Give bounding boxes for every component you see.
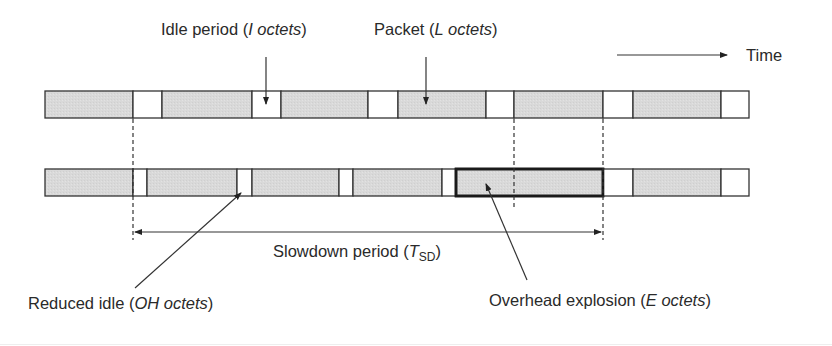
overhead-explosion-packet <box>456 169 603 196</box>
idle-period-label: Idle period (I octets) <box>161 21 307 38</box>
packet-label: Packet (L octets) <box>374 21 498 38</box>
idle-segment <box>721 91 749 118</box>
packet-segment <box>45 91 133 118</box>
reduced-idle-label: Reduced idle (OH octets) <box>28 295 213 312</box>
idle-segment <box>133 91 162 118</box>
idle-segment <box>368 91 398 118</box>
packet-segment <box>45 169 133 196</box>
original-packet-stream <box>45 91 749 118</box>
idle-segment <box>133 169 147 196</box>
idle-segment <box>237 169 252 196</box>
slowdown-arrow-left-head <box>134 229 142 235</box>
packet-segment <box>162 91 252 118</box>
reduced-idle-pointer <box>135 193 241 288</box>
packet-segment <box>633 169 721 196</box>
packet-segment <box>353 169 442 196</box>
packet-segment <box>147 169 237 196</box>
slowdown-period-label: Slowdown period (TSD) <box>273 243 441 260</box>
idle-segment <box>603 91 633 118</box>
packet-segment <box>398 91 486 118</box>
idle-segment <box>486 91 514 118</box>
packet-segment <box>281 91 368 118</box>
packet-segment <box>514 91 603 118</box>
idle-segment <box>339 169 353 196</box>
idle-segment <box>603 169 633 196</box>
packet-segment <box>633 91 721 118</box>
idle-segment <box>721 169 749 196</box>
slowed-packet-stream <box>45 169 749 196</box>
overhead-explosion-label: Overhead explosion (E octets) <box>489 292 711 309</box>
time-label: Time <box>746 47 782 64</box>
idle-segment <box>442 169 456 196</box>
scan-artifact-line <box>0 344 832 345</box>
packet-segment <box>252 169 339 196</box>
